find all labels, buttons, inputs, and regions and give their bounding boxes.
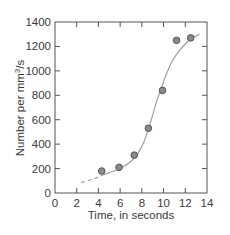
- x-tick-label: 0: [52, 197, 58, 209]
- y-axis-label: Number per mm3/s: [13, 60, 26, 157]
- plot-axes: [55, 22, 207, 193]
- x-tick-label: 10: [157, 197, 170, 209]
- data-point: [145, 125, 152, 132]
- x-tick-label: 14: [201, 197, 214, 209]
- y-tick-label: 800: [32, 89, 51, 101]
- x-axis-ticks: 02468101214: [52, 22, 214, 209]
- plot-frame: [55, 22, 207, 193]
- data-point: [116, 164, 123, 171]
- x-axis-label: Time, in seconds: [88, 209, 175, 221]
- data-point: [173, 37, 180, 44]
- data-point: [98, 168, 105, 175]
- y-tick-label: 400: [32, 138, 51, 150]
- x-tick-label: 4: [95, 197, 102, 209]
- x-tick-label: 2: [74, 197, 80, 209]
- data-points: [98, 35, 194, 175]
- y-tick-label: 600: [32, 114, 51, 126]
- y-tick-label: 1200: [25, 40, 51, 52]
- y-axis-ticks: 0200400600800100012001400: [25, 16, 207, 199]
- fitted-curves: [81, 34, 199, 182]
- x-tick-label: 8: [139, 197, 145, 209]
- dashed-curve: [81, 176, 101, 183]
- x-tick-label: 12: [179, 197, 192, 209]
- y-tick-label: 0: [45, 187, 51, 199]
- y-tick-label: 200: [32, 163, 51, 175]
- y-tick-label: 1400: [25, 16, 51, 28]
- x-tick-label: 6: [117, 197, 123, 209]
- chart: 02468101214 0200400600800100012001400 Ti…: [0, 0, 230, 235]
- y-tick-label: 1000: [25, 65, 51, 77]
- data-point: [187, 35, 194, 42]
- data-point: [159, 87, 166, 94]
- fitted-curve: [101, 34, 200, 176]
- data-point: [131, 152, 138, 159]
